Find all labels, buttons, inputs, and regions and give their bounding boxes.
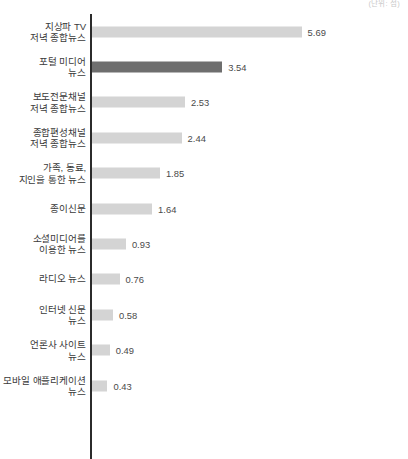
- value-label: 0.49: [116, 345, 134, 356]
- bar-row: 인터넷 신문 뉴스0.58: [0, 297, 408, 332]
- bar-row: 언론사 사이트 뉴스0.49: [0, 333, 408, 368]
- bar-and-value: 0.76: [92, 274, 144, 285]
- category-label: 모바일 애플리케이션 뉴스: [0, 374, 86, 397]
- category-label: 라디오 뉴스: [0, 274, 86, 285]
- bar-and-value: 0.43: [92, 380, 132, 391]
- bar-row: 소셜미디어를 이용한 뉴스0.93: [0, 226, 408, 261]
- category-label: 인터넷 신문 뉴스: [0, 303, 86, 326]
- bar: [92, 380, 108, 391]
- bar-row: 모바일 애플리케이션 뉴스0.43: [0, 368, 408, 403]
- bar-and-value: 3.54: [92, 62, 247, 73]
- bar: [92, 203, 153, 214]
- value-label: 0.58: [119, 309, 137, 320]
- value-label: 0.93: [132, 239, 150, 250]
- bar-rows-container: 지상파 TV 저녁 종합뉴스5.69포털 미디어 뉴스3.54보도전문채널 저녁…: [0, 14, 408, 403]
- value-label: 3.54: [228, 62, 246, 73]
- bar-and-value: 1.85: [92, 168, 185, 179]
- bar-row: 포털 미디어 뉴스3.54: [0, 49, 408, 84]
- category-label: 보도전문채널 저녁 종합뉴스: [0, 91, 86, 114]
- bar: [92, 345, 110, 356]
- bar-row: 지상파 TV 저녁 종합뉴스5.69: [0, 14, 408, 49]
- bar-and-value: 2.44: [92, 132, 206, 143]
- bar-row: 종이신문1.64: [0, 191, 408, 226]
- unit-note: (단위: 점): [368, 0, 400, 8]
- bar: [92, 132, 182, 143]
- bar-row: 가족, 동료, 지인을 통한 뉴스1.85: [0, 156, 408, 191]
- bar: [92, 26, 302, 37]
- bar: [92, 274, 120, 285]
- category-label: 지상파 TV 저녁 종합뉴스: [0, 20, 86, 43]
- bar-and-value: 5.69: [92, 26, 326, 37]
- bar-highlighted: [92, 62, 223, 73]
- bar: [92, 168, 160, 179]
- bar: [92, 97, 185, 108]
- category-label: 소셜미디어를 이용한 뉴스: [0, 233, 86, 256]
- category-label: 언론사 사이트 뉴스: [0, 339, 86, 362]
- value-label: 2.53: [191, 97, 209, 108]
- category-label: 가족, 동료, 지인을 통한 뉴스: [0, 162, 86, 185]
- category-label: 종합편성채널 저녁 종합뉴스: [0, 126, 86, 149]
- value-label: 5.69: [308, 26, 326, 37]
- bar-row: 보도전문채널 저녁 종합뉴스2.53: [0, 85, 408, 120]
- bar: [92, 309, 113, 320]
- bar-and-value: 2.53: [92, 97, 210, 108]
- value-label: 0.43: [113, 380, 131, 391]
- value-label: 1.85: [166, 168, 184, 179]
- category-label: 포털 미디어 뉴스: [0, 56, 86, 79]
- value-label: 1.64: [158, 203, 176, 214]
- bar-row: 라디오 뉴스0.76: [0, 262, 408, 297]
- value-label: 2.44: [188, 132, 206, 143]
- bar-and-value: 1.64: [92, 203, 177, 214]
- bar-row: 종합편성채널 저녁 종합뉴스2.44: [0, 120, 408, 155]
- bar-and-value: 0.93: [92, 239, 151, 250]
- horizontal-bar-chart: (단위: 점) 지상파 TV 저녁 종합뉴스5.69포털 미디어 뉴스3.54보…: [0, 0, 408, 459]
- value-label: 0.76: [126, 274, 144, 285]
- bar-and-value: 0.58: [92, 309, 138, 320]
- bar-and-value: 0.49: [92, 345, 134, 356]
- category-label: 종이신문: [0, 203, 86, 214]
- bar: [92, 239, 126, 250]
